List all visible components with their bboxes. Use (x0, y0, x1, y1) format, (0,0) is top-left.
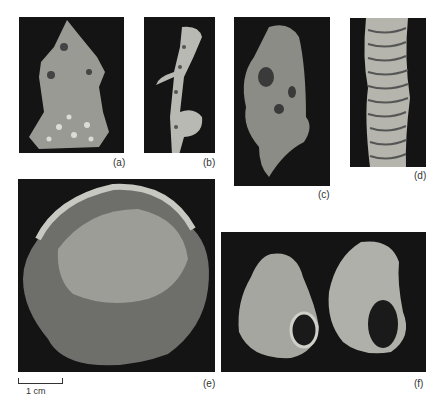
panel-e-label: (e) (203, 378, 215, 389)
scale-bar-label: 1 cm (26, 386, 46, 396)
panel-d-label: (d) (414, 170, 426, 181)
panel-b-image (144, 17, 215, 153)
panel-b-label: (b) (203, 157, 215, 168)
panel-f-label: (f) (414, 378, 423, 389)
scale-bar (18, 378, 63, 384)
fossil-f-shapes (221, 232, 426, 372)
fossil-b-shape (144, 17, 215, 153)
panel-f-image (221, 232, 426, 372)
panel-e-image (18, 179, 215, 372)
fossil-e-shape (18, 179, 215, 372)
panel-d-image (350, 18, 426, 167)
fossil-a-shape (19, 17, 124, 153)
panel-c-label: (c) (318, 189, 330, 200)
fossil-c-shape (234, 17, 330, 186)
panel-c-image (234, 17, 330, 186)
panel-a-image (19, 17, 124, 153)
panel-a-label: (a) (113, 157, 125, 168)
fossil-d-shape (350, 18, 426, 167)
